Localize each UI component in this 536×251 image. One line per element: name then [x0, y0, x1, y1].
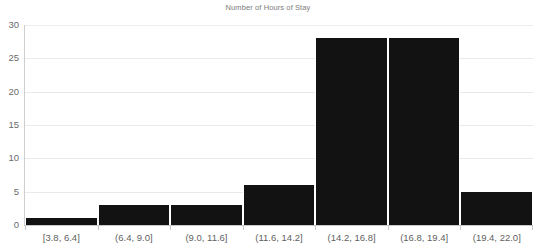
histogram-bar[interactable] [460, 192, 533, 225]
x-axis-tick-label: (9.0, 11.6] [170, 231, 243, 249]
bar-cell [170, 25, 243, 225]
bar-cell [460, 25, 533, 225]
x-axis-tick-mark [170, 226, 171, 230]
x-axis-line [24, 225, 533, 226]
bar-cell [388, 25, 461, 225]
bar-cell [315, 25, 388, 225]
x-axis-tick-mark [460, 226, 461, 230]
x-axis-labels: [3.8, 6.4](6.4, 9.0](9.0, 11.6](11.6, 14… [25, 231, 533, 249]
x-axis-tick-label: [3.8, 6.4] [25, 231, 98, 249]
x-axis-tick-mark [98, 226, 99, 230]
y-axis-tick-label: 15 [0, 120, 19, 130]
x-axis-tick-mark [388, 226, 389, 230]
bar-cell [98, 25, 171, 225]
bar-cell [25, 25, 98, 225]
histogram-bar[interactable] [98, 205, 171, 225]
x-axis-tick-mark [315, 226, 316, 230]
y-axis-tick-label: 20 [0, 87, 19, 97]
y-axis-tick-label: 0 [0, 220, 19, 230]
histogram-chart: Number of Hours of Stay 051015202530 [3.… [0, 0, 536, 251]
bar-series [25, 25, 533, 225]
histogram-bar[interactable] [315, 38, 388, 225]
histogram-bar[interactable] [388, 38, 461, 225]
x-axis-tick-mark [25, 226, 26, 230]
y-axis-tick-label: 30 [0, 20, 19, 30]
histogram-bar[interactable] [170, 205, 243, 225]
histogram-bar[interactable] [25, 218, 98, 225]
x-axis-tick-label: (19.4, 22.0] [460, 231, 533, 249]
plot-area [25, 25, 533, 225]
x-axis-tick-label: (14.2, 16.8] [315, 231, 388, 249]
y-axis-tick-label: 10 [0, 153, 19, 163]
x-axis-tick-label: (11.6, 14.2] [243, 231, 316, 249]
bar-cell [243, 25, 316, 225]
x-axis-tick-label: (6.4, 9.0] [98, 231, 171, 249]
y-axis-tick-label: 5 [0, 187, 19, 197]
x-axis-tick-mark [243, 226, 244, 230]
x-axis-tick-mark [532, 226, 533, 230]
x-axis-tick-label: (16.8, 19.4] [388, 231, 461, 249]
histogram-bar[interactable] [243, 185, 316, 225]
y-axis-tick-label: 25 [0, 53, 19, 63]
